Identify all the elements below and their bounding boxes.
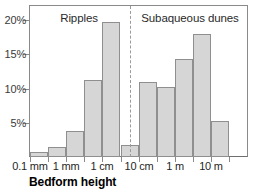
bar-10: [211, 121, 229, 157]
bar-1: [48, 147, 66, 157]
annotation-ripples: Ripples: [60, 12, 98, 24]
annotation-subaqueous-dunes: Subaqueous dunes: [141, 12, 239, 24]
bar-8: [175, 59, 193, 157]
x-axis-label-2: 1 cm: [90, 160, 113, 172]
x-axis-label-0: 0.1 mm: [12, 160, 47, 172]
x-tick-9: [193, 157, 194, 162]
x-axis-title: Bedform height: [29, 175, 116, 189]
x-axis-label-3: 10 cm: [125, 160, 154, 172]
x-tick-11: [229, 157, 230, 162]
x-tick-3: [84, 157, 85, 162]
y-axis-label-20: 20%: [5, 14, 26, 26]
bar-7: [157, 87, 175, 157]
regime-divider: [130, 6, 131, 157]
y-axis-label-15: 15%: [5, 48, 26, 60]
bedform-height-histogram: 5% 10% 15% 20% Ripples Subaqueous dunes …: [0, 0, 257, 194]
x-tick-1: [48, 157, 49, 162]
x-axis-label-5: 10 m: [199, 160, 223, 172]
y-axis-label-10: 10%: [5, 83, 26, 95]
x-axis-label-4: 1 m: [166, 160, 184, 172]
bar-2: [66, 131, 84, 157]
bar-0: [30, 152, 48, 158]
x-tick-5: [121, 157, 122, 162]
bar-6: [139, 82, 157, 157]
x-axis-label-1: 1 mm: [53, 160, 80, 172]
x-tick-7: [157, 157, 158, 162]
bar-3: [84, 80, 102, 157]
y-axis-label-5: 5%: [11, 117, 27, 129]
bar-4: [102, 22, 120, 157]
bar-9: [193, 34, 211, 157]
